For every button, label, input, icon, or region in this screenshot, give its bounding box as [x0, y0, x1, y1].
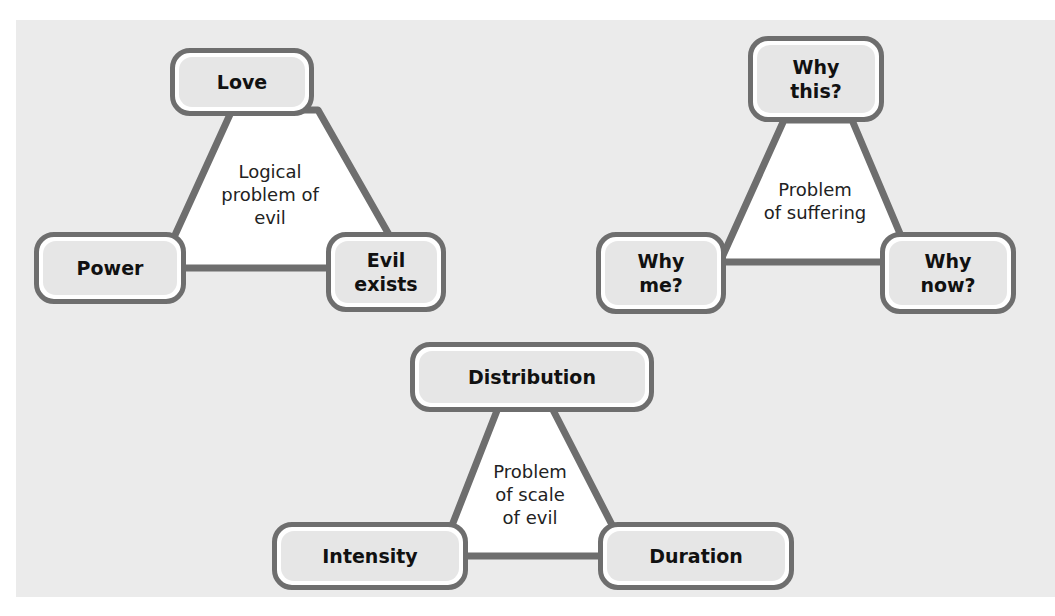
center-line: problem of [180, 183, 360, 206]
center-line: Problem [470, 460, 590, 483]
node-label: Evil exists [335, 241, 437, 303]
center-line: of suffering [740, 201, 890, 224]
center-label-logical-problem: Logical problem of evil [180, 160, 360, 229]
node-intensity: Intensity [272, 522, 468, 590]
node-why-now: Why now? [880, 232, 1016, 314]
node-label: Distribution [419, 351, 645, 403]
node-label-line: exists [354, 272, 417, 296]
node-power: Power [34, 232, 186, 304]
node-why-this: Why this? [748, 36, 884, 122]
center-line: Logical [180, 160, 360, 183]
node-label: Why me? [605, 241, 717, 305]
center-label-problem-of-scale: Problem of scale of evil [470, 460, 590, 529]
node-label-line: Why [925, 249, 972, 273]
node-label: Duration [607, 531, 785, 581]
node-label-line: Why [793, 55, 840, 79]
node-duration: Duration [598, 522, 794, 590]
center-label-problem-of-suffering: Problem of suffering [740, 178, 890, 224]
center-line: of evil [470, 506, 590, 529]
node-label-line: me? [639, 273, 683, 297]
node-label: Why this? [757, 45, 875, 113]
node-label-line: Why [638, 249, 685, 273]
node-label: Why now? [889, 241, 1007, 305]
node-label-line: now? [920, 273, 975, 297]
center-line: Problem [740, 178, 890, 201]
center-line: evil [180, 206, 360, 229]
node-label-line: this? [790, 79, 841, 103]
node-distribution: Distribution [410, 342, 654, 412]
node-evil-exists: Evil exists [326, 232, 446, 312]
node-label: Love [179, 57, 305, 107]
node-love: Love [170, 48, 314, 116]
node-label-line: Evil [367, 248, 405, 272]
node-why-me: Why me? [596, 232, 726, 314]
center-line: of scale [470, 483, 590, 506]
node-label: Power [43, 241, 177, 295]
node-label: Intensity [281, 531, 459, 581]
